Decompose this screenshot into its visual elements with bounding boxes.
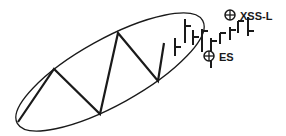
price-bar — [220, 33, 226, 44]
marker-label: ES — [219, 51, 234, 63]
wave-pattern-diagram: ESXSS-L — [0, 0, 286, 136]
price-bar — [185, 19, 191, 43]
zigzag-wave — [18, 33, 164, 122]
price-bars — [175, 17, 254, 68]
price-bar — [230, 27, 236, 40]
zigzag-line — [18, 33, 164, 122]
entry-markers: ESXSS-L — [204, 10, 273, 63]
price-bar — [202, 29, 208, 52]
crosshair-marker-xss-l: XSS-L — [225, 10, 273, 22]
crosshair-marker-es: ES — [204, 51, 234, 63]
price-bar — [175, 38, 181, 56]
marker-label: XSS-L — [240, 10, 273, 22]
price-bar — [238, 21, 244, 33]
